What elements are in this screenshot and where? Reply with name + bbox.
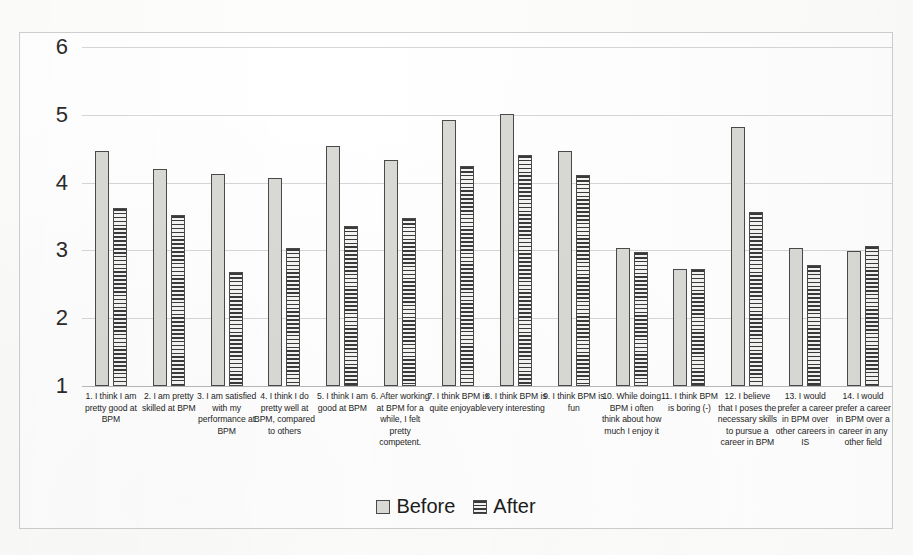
bar-series-layer	[82, 47, 892, 386]
bar-before[interactable]	[500, 114, 514, 386]
bar-before[interactable]	[211, 174, 225, 386]
bar-group	[429, 47, 487, 386]
legend-item-before[interactable]: Before	[376, 495, 455, 518]
bar-before[interactable]	[616, 248, 630, 386]
y-tick-label-6: 6	[56, 36, 68, 58]
legend-label-before: Before	[396, 495, 455, 518]
bar-after[interactable]	[518, 155, 532, 386]
bar-group	[661, 47, 719, 386]
bar-before[interactable]	[789, 248, 803, 386]
bar-before[interactable]	[153, 169, 167, 386]
bar-group	[776, 47, 834, 386]
x-axis-label: 10. While doing BPM i often think about …	[601, 391, 663, 437]
bar-after[interactable]	[691, 269, 705, 386]
x-axis-label: 3. I am satisfied with my performance at…	[196, 391, 258, 437]
x-axis-label: 1. I think I am pretty good at BPM	[80, 391, 142, 426]
bar-after[interactable]	[576, 175, 590, 386]
bar-group	[371, 47, 429, 386]
x-axis-label: 13. I would prefer a career in BPM over …	[774, 391, 836, 449]
bar-group	[487, 47, 545, 386]
x-axis-label: 14. I would prefer a career in BPM over …	[832, 391, 894, 449]
x-axis-label: 11. I think BPM is boring (-)	[659, 391, 721, 414]
bar-group	[718, 47, 776, 386]
legend-label-after: After	[493, 495, 535, 518]
bar-before[interactable]	[326, 146, 340, 386]
bar-before[interactable]	[442, 120, 456, 386]
y-tick-label-2: 2	[56, 307, 68, 329]
bar-before[interactable]	[673, 269, 687, 386]
bar-after[interactable]	[402, 218, 416, 386]
bar-after[interactable]	[113, 208, 127, 386]
bar-group	[140, 47, 198, 386]
x-axis-label: 4. I think I do pretty well at BPM, comp…	[254, 391, 316, 437]
plot-area: 123456	[82, 47, 892, 386]
legend-item-after[interactable]: After	[473, 495, 535, 518]
x-axis-label: 9. I think BPM is fun	[543, 391, 605, 414]
bar-after[interactable]	[634, 252, 648, 386]
x-axis-label: 8. I think BPM is very interesting	[485, 391, 547, 414]
chart-legend: Before After	[20, 495, 892, 518]
bar-group	[545, 47, 603, 386]
x-axis-label: 5. I think I am good at BPM	[311, 391, 373, 414]
bar-group	[603, 47, 661, 386]
bar-after[interactable]	[749, 212, 763, 386]
y-tick-label-4: 4	[56, 172, 68, 194]
bar-after[interactable]	[229, 272, 243, 386]
bar-before[interactable]	[731, 127, 745, 386]
bar-group	[82, 47, 140, 386]
x-axis-label: 2. I am pretty skilled at BPM	[138, 391, 200, 414]
y-tick-label-1: 1	[56, 375, 68, 397]
bar-after[interactable]	[865, 246, 879, 386]
y-tick-label-3: 3	[56, 239, 68, 261]
chart-frame: 123456 1. I think I am pretty good at BP…	[19, 32, 893, 529]
y-tick-label-5: 5	[56, 104, 68, 126]
bar-after[interactable]	[807, 265, 821, 386]
legend-swatch-before-icon	[376, 500, 390, 514]
x-axis-label: 12. I believe that I poses the necessary…	[716, 391, 778, 449]
gridline-1	[82, 386, 892, 387]
x-axis-label: 7. I think BPM is quite enjoyable	[427, 391, 489, 414]
bar-before[interactable]	[268, 178, 282, 386]
bar-before[interactable]	[95, 151, 109, 386]
bar-after[interactable]	[344, 226, 358, 386]
bar-group	[198, 47, 256, 386]
x-axis-label: 6. After working at BPM for a while, I f…	[369, 391, 431, 449]
bar-after[interactable]	[171, 215, 185, 386]
bar-group	[834, 47, 892, 386]
bar-before[interactable]	[847, 251, 861, 386]
bar-after[interactable]	[286, 248, 300, 386]
bar-group	[256, 47, 314, 386]
bar-before[interactable]	[384, 160, 398, 386]
legend-swatch-after-icon	[473, 500, 487, 514]
bar-group	[313, 47, 371, 386]
bar-after[interactable]	[460, 166, 474, 386]
bar-before[interactable]	[558, 151, 572, 386]
